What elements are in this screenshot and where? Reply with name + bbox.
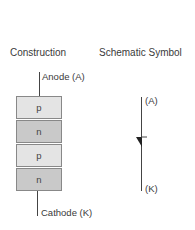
layer-n2: n: [16, 168, 62, 191]
schematic-anode-label: (A): [145, 95, 158, 106]
cathode-lead: [37, 191, 38, 216]
layer-p1: p: [16, 96, 62, 119]
layer-n1: n: [16, 120, 62, 143]
anode-label: Anode (A): [42, 71, 85, 82]
schematic-heading: Schematic Symbol: [99, 47, 182, 58]
cathode-label: Cathode (K): [41, 207, 92, 218]
layer-p2: p: [16, 144, 62, 167]
anode-lead: [39, 72, 40, 96]
construction-heading: Construction: [10, 47, 66, 58]
thyristor-arrow-icon: [134, 136, 148, 148]
schematic-cathode-label: (K): [145, 183, 158, 194]
